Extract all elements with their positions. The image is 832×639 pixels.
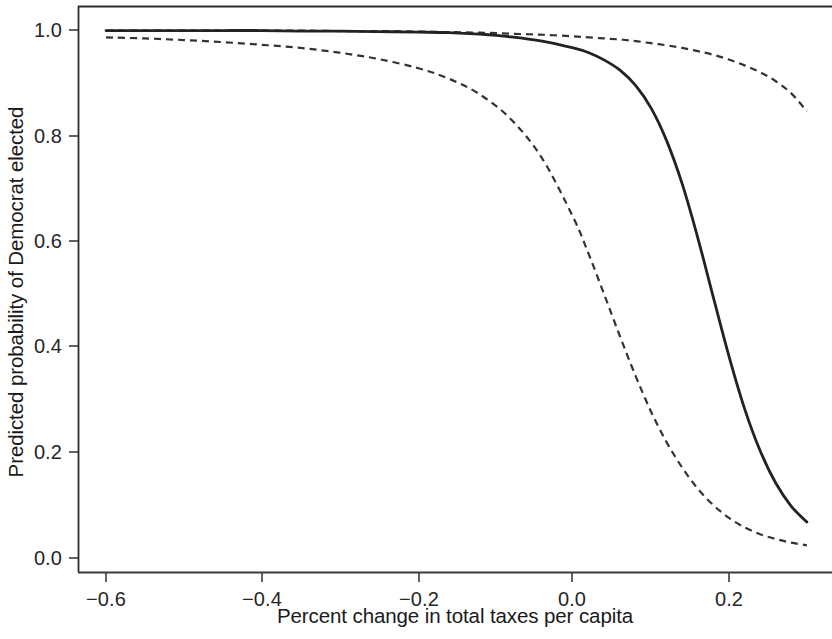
curve-upper-confidence bbox=[106, 30, 807, 111]
y-axis-title: Predicted probability of Democrat electe… bbox=[4, 12, 34, 572]
chart-figure: 1.0 0.8 0.6 0.4 0.2 0.0 −0.6 −0.4 −0.2 0… bbox=[0, 0, 832, 639]
x-axis-ticks bbox=[106, 572, 729, 582]
curve-lower-confidence bbox=[106, 37, 807, 545]
curve-predicted-probability bbox=[106, 30, 807, 522]
data-curves bbox=[106, 30, 807, 545]
axis-frame bbox=[78, 6, 832, 573]
x-axis-title: Percent change in total taxes per capita bbox=[78, 604, 832, 628]
y-axis-ticks bbox=[69, 30, 78, 558]
plot-area bbox=[0, 0, 832, 639]
